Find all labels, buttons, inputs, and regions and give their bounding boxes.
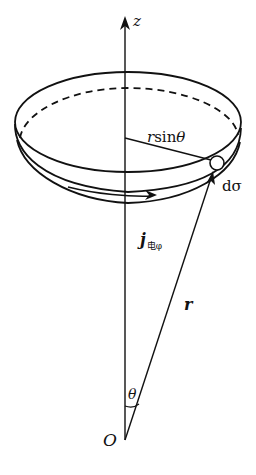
z-axis [120, 16, 130, 440]
origin-label: O [103, 430, 117, 450]
area-element-label: dσ [222, 177, 242, 195]
ring-top-ellipse [15, 72, 241, 172]
ring-current-diagram: z rsinθ dσ j电φ r θ O [0, 0, 256, 475]
angle-label: θ [128, 386, 137, 402]
current-arrowhead-icon [145, 190, 157, 200]
z-axis-label: z [132, 12, 141, 30]
radius-projection-label: rsinθ [147, 128, 185, 146]
area-element-circle [210, 156, 224, 170]
ring-back-dashed-arc [20, 88, 238, 138]
position-vector-label: r [184, 295, 194, 314]
current-density-label: j电φ [137, 230, 162, 251]
position-vector-line [125, 178, 211, 440]
